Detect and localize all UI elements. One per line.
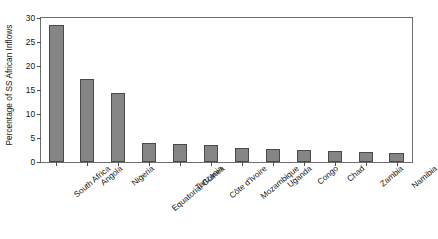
bar-slot xyxy=(103,18,134,162)
x-axis-tick-label: Tanzania xyxy=(194,164,225,192)
y-axis-tick-label: 15 xyxy=(26,85,35,95)
x-axis-labels: South AfricaAngolaNigeriaEquatorial Guin… xyxy=(40,164,413,238)
x-axis-tick-label: Namibia xyxy=(410,164,438,190)
x-axis-tick-label: Chad xyxy=(345,164,366,183)
y-axis-tick-label: 20 xyxy=(26,61,35,71)
bar[interactable] xyxy=(204,145,218,162)
bar-slot xyxy=(227,18,258,162)
bar-slot xyxy=(257,18,288,162)
y-axis-tick-label: 5 xyxy=(30,133,35,143)
bar[interactable] xyxy=(49,25,63,162)
bar[interactable] xyxy=(142,143,156,162)
bar-slot xyxy=(196,18,227,162)
y-axis-tick-label: 0 xyxy=(30,157,35,167)
bar-slot xyxy=(134,18,165,162)
bar[interactable] xyxy=(111,93,125,162)
y-axis-tick-label: 25 xyxy=(26,37,35,47)
bar[interactable] xyxy=(235,148,249,162)
bar-slot xyxy=(350,18,381,162)
bar[interactable] xyxy=(359,152,373,162)
bar-slot xyxy=(319,18,350,162)
bar[interactable] xyxy=(266,149,280,162)
bar-slot xyxy=(381,18,412,162)
bar-slot xyxy=(165,18,196,162)
plot-inner: 051015202530 xyxy=(41,18,412,162)
bar-slot xyxy=(288,18,319,162)
x-axis-tick-label: Zambia xyxy=(378,164,405,188)
bar-slot xyxy=(72,18,103,162)
y-axis-title: Percentage of SS African Inflows xyxy=(5,5,23,165)
plot-area: 051015202530 xyxy=(40,17,413,163)
y-axis-tick-label: 30 xyxy=(26,13,35,23)
bar[interactable] xyxy=(80,79,94,162)
y-axis-tick xyxy=(37,162,41,163)
x-axis-tick-label: Nigeria xyxy=(130,164,156,188)
bar[interactable] xyxy=(389,153,403,162)
x-axis-tick-label: Congo xyxy=(315,164,339,186)
bar[interactable] xyxy=(328,151,342,162)
y-axis-tick-label: 10 xyxy=(26,109,35,119)
bar-slot xyxy=(41,18,72,162)
bar[interactable] xyxy=(297,150,311,162)
bar[interactable] xyxy=(173,144,187,162)
